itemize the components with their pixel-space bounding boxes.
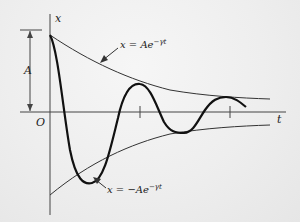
origin-label: O xyxy=(36,116,45,129)
lower-envelope-label: x = −Ae−γt xyxy=(107,183,162,195)
lower-envelope-exponent: −γt xyxy=(149,183,162,191)
upper-envelope-exponent: −γt xyxy=(154,38,167,46)
lower-envelope-equation: x = −Ae xyxy=(107,184,149,195)
vertical-axis-label: x xyxy=(55,12,62,25)
upper-envelope-equation: x = Ae xyxy=(120,39,154,50)
upper-envelope-label: x = Ae−γt xyxy=(120,38,167,50)
damped-oscillation-curve xyxy=(50,35,246,183)
damped-oscillation-diagram: x t O A x = Ae−γt x = −Ae−γt xyxy=(0,0,300,222)
upper-pointer-arrowhead-icon xyxy=(100,55,108,63)
amplitude-arrow-down-icon xyxy=(27,104,33,111)
amplitude-arrow-up-icon xyxy=(27,31,33,38)
horizontal-axis-label: t xyxy=(277,113,282,126)
amplitude-label: A xyxy=(23,64,32,77)
